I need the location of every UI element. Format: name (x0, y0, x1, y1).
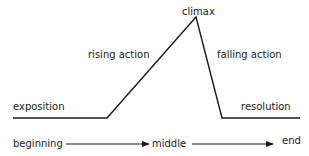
end-label: end (282, 136, 301, 146)
plot-diagram: exposition rising action climax falling … (0, 0, 309, 156)
falling-action-label: falling action (217, 50, 282, 60)
plot-line-graphic (0, 0, 309, 156)
resolution-label: resolution (241, 102, 291, 112)
climax-label: climax (182, 7, 215, 17)
exposition-label: exposition (13, 102, 65, 112)
beginning-label: beginning (13, 139, 63, 149)
middle-label: middle (152, 139, 186, 149)
rising-action-label: rising action (88, 50, 150, 60)
